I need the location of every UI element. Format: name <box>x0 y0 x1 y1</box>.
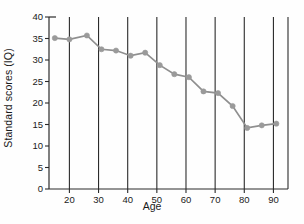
svg-text:20: 20 <box>32 97 43 108</box>
data-markers-group <box>52 33 279 131</box>
svg-text:25: 25 <box>32 76 43 87</box>
svg-text:5: 5 <box>38 162 43 173</box>
data-line-series-0 <box>55 35 277 127</box>
y-axis-ticks-group: 0510152025303540 <box>32 11 49 194</box>
x-axis-title: Age <box>0 200 304 212</box>
svg-text:40: 40 <box>32 11 43 22</box>
gridlines-group <box>69 17 288 189</box>
svg-text:15: 15 <box>32 119 43 130</box>
svg-text:30: 30 <box>32 54 43 65</box>
svg-text:0: 0 <box>38 183 43 194</box>
chart-figure: Standard scores (IQ) 0510152025303540 20… <box>0 0 304 224</box>
svg-text:35: 35 <box>32 33 43 44</box>
svg-text:10: 10 <box>32 140 43 151</box>
chart-plot-area: 0510152025303540 2030405060708090 <box>0 0 304 224</box>
